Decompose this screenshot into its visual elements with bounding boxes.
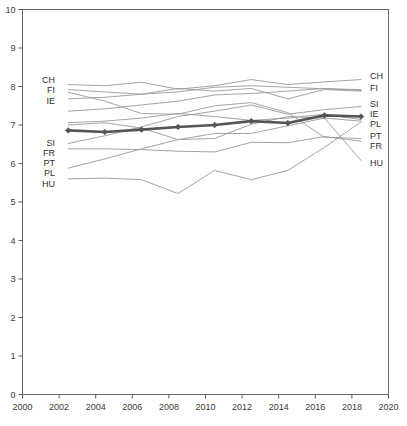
left-label-si: SI bbox=[46, 138, 55, 148]
left-label-hu: HU bbox=[42, 179, 55, 189]
y-tick-label: 6 bbox=[10, 159, 15, 169]
x-tick-label: 2018 bbox=[342, 402, 362, 412]
y-tick-label: 8 bbox=[10, 82, 15, 92]
y-tick-label: 5 bbox=[10, 197, 15, 207]
right-label-pl: PL bbox=[370, 119, 381, 129]
right-label-ie: IE bbox=[370, 109, 379, 119]
y-tick-label: 4 bbox=[10, 236, 15, 246]
right-label-fi: FI bbox=[370, 83, 378, 93]
right-label-pt: PT bbox=[370, 131, 382, 141]
x-tick-label: 2000 bbox=[12, 402, 32, 412]
y-axis-ticks: 012345678910 bbox=[5, 5, 22, 400]
line-chart: 012345678910 200020022004200620082010201… bbox=[0, 0, 407, 426]
y-tick-label: 3 bbox=[10, 274, 15, 284]
right-label-fr: FR bbox=[370, 141, 382, 151]
x-tick-label: 2008 bbox=[159, 402, 179, 412]
chart-canvas: 012345678910 200020022004200620082010201… bbox=[0, 0, 407, 426]
plot-frame bbox=[23, 10, 389, 395]
left-label-pl: PL bbox=[44, 168, 55, 178]
x-tick-label: 2002 bbox=[49, 402, 69, 412]
right-label-si: SI bbox=[370, 99, 379, 109]
y-tick-label: 1 bbox=[10, 351, 15, 361]
left-label-ch: CH bbox=[42, 75, 55, 85]
left-label-pt: PT bbox=[43, 158, 55, 168]
x-tick-label: 2010 bbox=[195, 402, 215, 412]
y-tick-label: 2 bbox=[10, 313, 15, 323]
x-tick-label: 2006 bbox=[122, 402, 142, 412]
y-tick-label: 7 bbox=[10, 120, 15, 130]
y-tick-label: 10 bbox=[5, 5, 15, 15]
x-axis-ticks: 2000200220042006200820102012201420162018… bbox=[12, 395, 398, 412]
x-tick-label: 2014 bbox=[269, 402, 289, 412]
y-tick-label: 9 bbox=[10, 43, 15, 53]
right-label-ch: CH bbox=[370, 71, 383, 81]
left-label-ie: IE bbox=[46, 96, 55, 106]
left-label-fr: FR bbox=[43, 148, 55, 158]
x-tick-label: 2020 bbox=[378, 402, 398, 412]
x-tick-label: 2004 bbox=[86, 402, 106, 412]
plot-area-border bbox=[23, 10, 389, 395]
x-tick-label: 2012 bbox=[232, 402, 252, 412]
y-tick-label: 0 bbox=[10, 390, 15, 400]
left-label-fi: FI bbox=[47, 85, 55, 95]
x-tick-label: 2016 bbox=[305, 402, 325, 412]
figure-caption bbox=[0, 416, 407, 426]
right-label-hu: HU bbox=[370, 158, 383, 168]
